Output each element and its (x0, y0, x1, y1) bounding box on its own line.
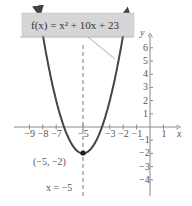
label-leader-line (88, 37, 115, 59)
svg-text:5: 5 (143, 55, 148, 66)
y-axis-label: y (139, 27, 145, 38)
vertex-point (80, 150, 85, 155)
svg-text:−9: −9 (24, 128, 35, 139)
svg-text:1: 1 (143, 108, 148, 119)
svg-text:2: 2 (143, 95, 148, 106)
function-label: f(x) = x² + 10x + 23 (31, 19, 119, 32)
axis-of-symmetry-label: x = −5 (46, 182, 72, 193)
svg-text:−7: −7 (51, 128, 62, 139)
svg-text:−2: −2 (118, 128, 129, 139)
svg-text:1: 1 (161, 128, 166, 139)
svg-text:−3: −3 (139, 161, 150, 172)
svg-text:4: 4 (143, 68, 148, 79)
svg-text:6: 6 (143, 42, 148, 53)
svg-text:−8: −8 (38, 128, 49, 139)
svg-text:−4: −4 (139, 174, 150, 185)
svg-text:3: 3 (143, 81, 148, 92)
x-axis-label: x (176, 128, 182, 139)
parabola-chart: −9−8−7−5−3−2−11 654321−1−2−3−4 x y (−5, … (0, 0, 192, 206)
y-ticks: 654321−1−2−3−4 (139, 42, 153, 185)
svg-text:−3: −3 (105, 128, 116, 139)
svg-text:−1: −1 (139, 134, 150, 145)
svg-text:−2: −2 (139, 147, 150, 158)
vertex-label: (−5, −2) (33, 156, 66, 168)
